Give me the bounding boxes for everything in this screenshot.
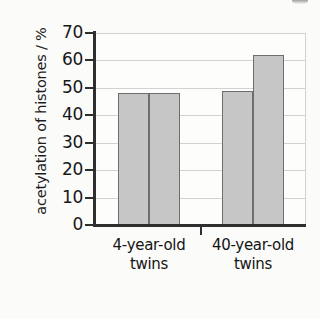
bar-group1-1 bbox=[118, 93, 149, 225]
plot-area bbox=[95, 33, 306, 225]
y-tick-60 bbox=[85, 59, 96, 61]
y-tick-30 bbox=[85, 142, 96, 144]
bar-group2-1 bbox=[222, 91, 253, 225]
y-tick-label-20: 20 bbox=[43, 159, 83, 179]
x-category-label-1-line1: 4-year-old bbox=[113, 236, 186, 254]
bar-group1-2 bbox=[149, 93, 180, 225]
bar-group2-2 bbox=[253, 55, 284, 225]
y-tick-20 bbox=[85, 169, 96, 171]
y-tick-label-40: 40 bbox=[43, 104, 83, 124]
page-crop-artifact bbox=[292, 0, 308, 4]
x-category-label-2: 40-year-oldtwins bbox=[191, 236, 315, 274]
bar-chart: acetylation of histones / % 010203040506… bbox=[0, 0, 320, 319]
y-tick-10 bbox=[85, 197, 96, 199]
y-tick-40 bbox=[85, 114, 96, 116]
y-tick-label-30: 30 bbox=[43, 132, 83, 152]
x-category-label-2-line1: 40-year-old bbox=[212, 236, 294, 254]
gridline-70 bbox=[95, 33, 306, 34]
y-tick-label-10: 10 bbox=[43, 187, 83, 207]
y-tick-50 bbox=[85, 87, 96, 89]
y-tick-label-0: 0 bbox=[43, 214, 83, 234]
y-tick-label-70: 70 bbox=[43, 22, 83, 42]
x-category-label-2-line2: twins bbox=[191, 255, 315, 274]
x-group-separator-tick bbox=[200, 226, 202, 235]
y-tick-label-50: 50 bbox=[43, 77, 83, 97]
y-tick-label-60: 60 bbox=[43, 49, 83, 69]
y-tick-70 bbox=[85, 32, 96, 34]
plot-right-edge bbox=[305, 33, 306, 225]
